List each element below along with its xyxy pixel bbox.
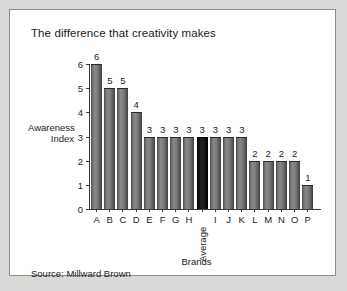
x-axis-tick bbox=[162, 209, 163, 212]
bar-group: 3K bbox=[235, 64, 248, 209]
bar bbox=[117, 88, 128, 209]
x-axis-tick bbox=[122, 209, 123, 212]
bar-value-label: 3 bbox=[196, 124, 209, 135]
bar-value-label: 6 bbox=[90, 51, 103, 62]
bar bbox=[157, 137, 168, 210]
y-axis-tick-label: 2 bbox=[78, 155, 83, 166]
y-axis-title-line-2: Index bbox=[28, 133, 74, 144]
x-axis-tick bbox=[241, 209, 242, 212]
x-axis-tick-label: F bbox=[156, 214, 169, 225]
bar bbox=[236, 137, 247, 210]
y-axis-tick bbox=[86, 161, 89, 162]
x-axis-title-label: Brands bbox=[181, 256, 211, 267]
chart-panel: The difference that creativity makes Awa… bbox=[9, 9, 336, 276]
bar-value-label: 3 bbox=[143, 124, 156, 135]
bar-value-label: 3 bbox=[182, 124, 195, 135]
y-axis-title: Awareness Index bbox=[28, 122, 74, 144]
bar bbox=[223, 137, 234, 210]
y-axis-tick bbox=[86, 185, 89, 186]
y-axis-tick bbox=[86, 88, 89, 89]
bar bbox=[302, 185, 313, 209]
x-axis-tick-label: G bbox=[169, 214, 182, 225]
y-axis-tick bbox=[86, 112, 89, 113]
x-axis-tick-label: D bbox=[130, 214, 143, 225]
bar-value-label: 5 bbox=[116, 75, 129, 86]
bar-group: 3F bbox=[156, 64, 169, 209]
y-axis-tick bbox=[86, 64, 89, 65]
bar-value-label: 2 bbox=[275, 148, 288, 159]
bar bbox=[210, 137, 221, 210]
bar-group: 3I bbox=[209, 64, 222, 209]
bar-group: 3Average bbox=[196, 64, 209, 209]
bar-group: 2L bbox=[248, 64, 261, 209]
x-axis-tick bbox=[254, 209, 255, 212]
x-axis-tick-label: H bbox=[182, 214, 195, 225]
x-axis-tick bbox=[294, 209, 295, 212]
y-axis-tick bbox=[86, 209, 89, 210]
x-axis-tick-label: I bbox=[209, 214, 222, 225]
bar-group: 2M bbox=[262, 64, 275, 209]
bar-group: 4D bbox=[130, 64, 143, 209]
y-axis-tick-label: 6 bbox=[78, 59, 83, 70]
bar-value-label: 1 bbox=[301, 172, 314, 183]
x-axis-tick bbox=[149, 209, 150, 212]
x-axis-tick-label: L bbox=[248, 214, 261, 225]
bar bbox=[170, 137, 181, 210]
bar-group: 3J bbox=[222, 64, 235, 209]
bar bbox=[276, 161, 287, 209]
bar bbox=[131, 112, 142, 209]
x-axis-title: Brands bbox=[10, 256, 347, 267]
x-axis-tick bbox=[281, 209, 282, 212]
bar-value-label: 5 bbox=[103, 75, 116, 86]
y-axis-tick-label: 0 bbox=[78, 204, 83, 215]
bar bbox=[91, 64, 102, 209]
bar-group: 3G bbox=[169, 64, 182, 209]
bar-group: 6A bbox=[90, 64, 103, 209]
bar bbox=[144, 137, 155, 210]
x-axis-tick bbox=[136, 209, 137, 212]
x-axis-tick bbox=[96, 209, 97, 212]
bar-value-label: 2 bbox=[288, 148, 301, 159]
bar-value-label: 3 bbox=[169, 124, 182, 135]
bar-group: 2O bbox=[288, 64, 301, 209]
bar-value-label: 2 bbox=[248, 148, 261, 159]
x-axis-tick bbox=[202, 209, 203, 212]
bar-group: 5C bbox=[116, 64, 129, 209]
x-axis-tick-label: J bbox=[222, 214, 235, 225]
x-axis-line bbox=[89, 209, 321, 210]
bar-value-label: 3 bbox=[209, 124, 222, 135]
bar-value-label: 4 bbox=[130, 99, 143, 110]
bar bbox=[289, 161, 300, 209]
y-axis-tick-label: 4 bbox=[78, 107, 83, 118]
bar-group: 3E bbox=[143, 64, 156, 209]
x-axis-tick bbox=[307, 209, 308, 212]
bar-group: 3H bbox=[182, 64, 195, 209]
chart-title: The difference that creativity makes bbox=[31, 27, 216, 39]
bar-value-label: 3 bbox=[156, 124, 169, 135]
x-axis-tick bbox=[175, 209, 176, 212]
bar-group: 5B bbox=[103, 64, 116, 209]
bar-value-label: 3 bbox=[235, 124, 248, 135]
x-axis-tick bbox=[215, 209, 216, 212]
x-axis-tick-label: A bbox=[90, 214, 103, 225]
chart-screenshot: The difference that creativity makes Awa… bbox=[0, 0, 347, 291]
x-axis-tick bbox=[188, 209, 189, 212]
y-axis-tick-label: 3 bbox=[78, 131, 83, 142]
bar bbox=[197, 137, 208, 210]
bar bbox=[263, 161, 274, 209]
x-axis-tick-label: E bbox=[143, 214, 156, 225]
x-axis-tick bbox=[109, 209, 110, 212]
bar-group: 1P bbox=[301, 64, 314, 209]
bar bbox=[183, 137, 194, 210]
plot-area: 01234566A5B5C4D3E3F3G3H3Average3I3J3K2L2… bbox=[89, 64, 321, 209]
y-axis-tick-label: 5 bbox=[78, 83, 83, 94]
bar-group: 2N bbox=[275, 64, 288, 209]
x-axis-tick bbox=[228, 209, 229, 212]
bar-value-label: 2 bbox=[262, 148, 275, 159]
bar bbox=[104, 88, 115, 209]
bar-value-label: 3 bbox=[222, 124, 235, 135]
x-axis-tick-label: N bbox=[275, 214, 288, 225]
x-axis-tick-label: C bbox=[116, 214, 129, 225]
x-axis-tick-label: P bbox=[301, 214, 314, 225]
x-axis-tick bbox=[268, 209, 269, 212]
